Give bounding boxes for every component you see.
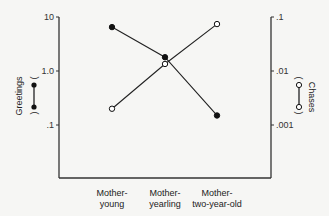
x-category-label: Mother-	[201, 188, 232, 198]
left-tick-label: 1.0	[41, 66, 54, 76]
right-tick-label: .01	[276, 66, 289, 76]
series-layer	[109, 21, 219, 118]
left-tick-label: 10	[44, 12, 54, 22]
legend-greetings-marker-icon	[31, 104, 36, 109]
x-category-label: young	[100, 199, 125, 209]
right-tick-label: .001	[276, 120, 294, 130]
legend-paren: )	[294, 112, 304, 115]
x-category-label: Mother-	[96, 188, 127, 198]
open-circle-marker	[109, 106, 114, 111]
x-category-label: two-year-old	[192, 199, 242, 209]
open-circle-marker	[162, 61, 167, 66]
left-tick-label: .1	[46, 120, 54, 130]
legend-chases-marker-icon	[296, 104, 301, 109]
left-axis-title: Greetings	[14, 76, 24, 116]
open-circle-marker	[214, 21, 219, 26]
legend-greetings-marker-icon	[31, 82, 36, 87]
filled-circle-marker	[214, 113, 219, 118]
legend-chases-marker-icon	[296, 82, 301, 87]
legend-paren: )	[29, 112, 39, 115]
filled-circle-marker	[162, 55, 167, 60]
right-tick-label: .1	[276, 12, 284, 22]
series-line-greetings	[112, 27, 217, 115]
filled-circle-marker	[109, 24, 114, 29]
x-category-label: yearling	[149, 199, 181, 209]
x-category-label: Mother-	[149, 188, 180, 198]
legend-paren: (	[29, 77, 39, 80]
chart: 101.0.1.1.01.001 Mother-youngMother-year…	[0, 0, 329, 216]
axes: 101.0.1.1.01.001	[41, 12, 293, 178]
right-axis-title: Chases	[307, 82, 317, 113]
legend-paren: (	[294, 77, 304, 80]
